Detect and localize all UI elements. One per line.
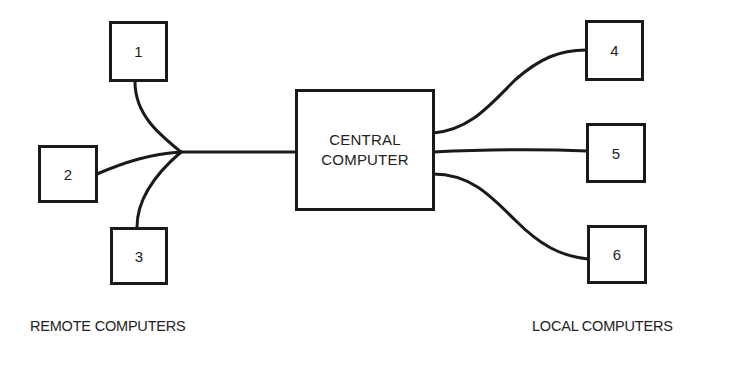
- central-label-line2: COMPUTER: [321, 150, 408, 170]
- node-label: 1: [134, 43, 142, 60]
- node-label: 6: [613, 246, 621, 263]
- remote-computers-caption: REMOTE COMPUTERS: [30, 318, 186, 334]
- remote-computer-3: 3: [110, 227, 168, 285]
- node-label: 5: [612, 145, 620, 162]
- central-computer: CENTRAL COMPUTER: [295, 89, 435, 211]
- central-label-line1: CENTRAL: [329, 130, 400, 150]
- local-computer-6: 6: [587, 225, 647, 284]
- remote-computer-2: 2: [38, 145, 98, 203]
- edge-central-5: [433, 150, 587, 152]
- node-label: 2: [64, 166, 72, 183]
- local-computers-caption: LOCAL COMPUTERS: [532, 318, 673, 334]
- edge-1-junction: [135, 82, 181, 152]
- node-label: 3: [135, 248, 143, 265]
- remote-computer-1: 1: [109, 21, 168, 82]
- edge-3-junction: [137, 152, 181, 227]
- local-computer-4: 4: [585, 20, 644, 81]
- node-label: 4: [610, 42, 618, 59]
- local-computer-5: 5: [586, 123, 646, 183]
- edge-central-6: [433, 174, 588, 259]
- edge-central-4: [433, 50, 586, 133]
